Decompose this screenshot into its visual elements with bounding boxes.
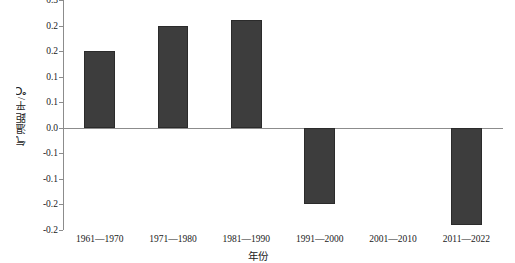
bar	[231, 20, 262, 127]
y-axis-tick-label: 0.2	[46, 46, 58, 56]
y-axis-tick-labels: 0.30.20.20.10.10.0-0.1-0.1-0.2-0.2	[28, 0, 58, 230]
y-axis-tick-mark	[59, 77, 63, 78]
bar	[451, 128, 482, 225]
x-axis-tick-label: 1981—1990	[223, 234, 271, 244]
x-axis-tick-label: 2011—2022	[443, 234, 490, 244]
x-axis-tick-label: 1991—2000	[296, 234, 344, 244]
plot-area	[63, 0, 503, 230]
y-axis-tick-mark	[59, 153, 63, 154]
y-axis-tick-label: -0.1	[43, 174, 58, 184]
chart-figure: 气温距平/℃ 0.30.20.20.10.10.0-0.1-0.1-0.2-0.…	[0, 0, 515, 263]
x-axis-tick-label: 2001—2010	[369, 234, 417, 244]
y-axis-tick-label: -0.2	[43, 199, 58, 209]
y-axis-tick-label: 0.0	[46, 123, 58, 133]
bar	[158, 26, 189, 128]
y-axis-spine	[63, 0, 64, 230]
y-axis-title-text: 气温距平/℃	[14, 84, 29, 146]
x-axis-tick-label: 1961—1970	[76, 234, 124, 244]
y-axis-tick-label: 0.1	[46, 97, 58, 107]
y-axis-tick-label: 0.2	[46, 21, 58, 31]
zero-baseline	[63, 128, 503, 129]
bar	[84, 51, 115, 128]
y-axis-tick-mark	[59, 102, 63, 103]
x-axis-title: 年份	[0, 248, 515, 263]
y-axis-tick-mark	[59, 51, 63, 52]
bar	[304, 128, 335, 205]
y-axis-tick-label: -0.1	[43, 148, 58, 158]
y-axis-tick-label: 0.3	[46, 0, 58, 5]
y-axis-tick-mark	[59, 204, 63, 205]
y-axis-tick-mark	[59, 26, 63, 27]
y-axis-tick-label: -0.2	[43, 225, 58, 235]
y-axis-tick-label: 0.1	[46, 72, 58, 82]
y-axis-tick-mark	[59, 0, 63, 1]
x-axis-tick-label: 1971—1980	[149, 234, 197, 244]
y-axis-tick-mark	[59, 230, 63, 231]
y-axis-tick-mark	[59, 128, 63, 129]
y-axis-tick-mark	[59, 179, 63, 180]
